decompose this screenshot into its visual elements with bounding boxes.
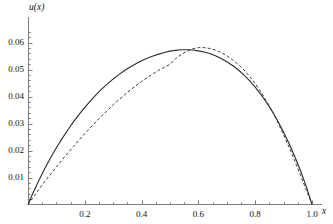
y-tick-label: 0.04 xyxy=(0,92,24,101)
plot-figure: 0.010.020.030.040.050.06 0.20.40.60.81.0… xyxy=(0,0,333,224)
y-tick-label: 0.06 xyxy=(0,38,24,47)
x-axis-major-ticks xyxy=(86,201,313,205)
x-tick-label: 0.4 xyxy=(127,210,157,219)
y-tick-label: 0.02 xyxy=(0,146,24,155)
x-tick-label: 0.2 xyxy=(70,210,100,219)
x-tick-label: 0.6 xyxy=(183,210,213,219)
y-tick-label: 0.05 xyxy=(0,65,24,74)
solid-curve-path xyxy=(28,50,312,205)
x-axis-title: x xyxy=(322,207,326,217)
y-axis-title: u(x) xyxy=(29,3,44,13)
y-axis-major-ticks xyxy=(29,44,33,179)
x-tick-label: 0.8 xyxy=(240,210,270,219)
y-tick-label: 0.01 xyxy=(0,173,24,182)
y-tick-label: 0.03 xyxy=(0,119,24,128)
plot-canvas xyxy=(0,0,333,224)
